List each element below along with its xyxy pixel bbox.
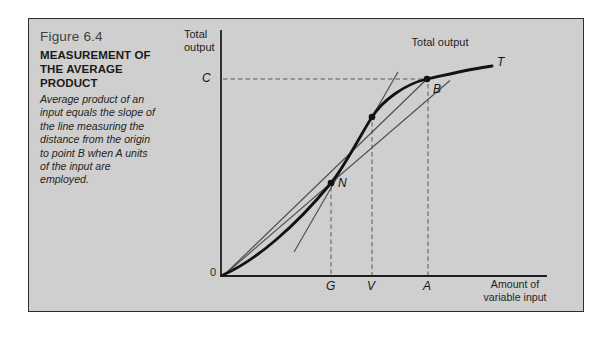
ray-origin-to-b — [223, 79, 427, 276]
y-axis-label: Total output — [184, 28, 226, 54]
total-output-curve — [223, 66, 492, 275]
point-dot-n — [328, 180, 335, 187]
point-label-b: B — [433, 82, 441, 96]
point-label-c: C — [202, 71, 211, 85]
textbook-figure-page: Figure 6.4 MEASUREMENT OF THE AVERAGE PR… — [0, 0, 603, 337]
origin-label: 0 — [200, 266, 216, 279]
point-label-t: T — [497, 55, 504, 69]
point-dot-b — [424, 76, 431, 83]
point-dot-above-v — [369, 114, 376, 121]
curve-label: Total output — [409, 36, 471, 49]
point-label-v: V — [367, 279, 375, 293]
point-label-g: G — [326, 279, 335, 293]
point-label-n: N — [338, 176, 347, 190]
x-axis-label: Amount of variable input — [478, 278, 552, 304]
point-label-a: A — [423, 279, 431, 293]
